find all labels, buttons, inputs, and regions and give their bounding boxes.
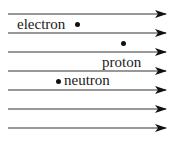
neutron-label: neutron [64,73,110,88]
electron-dot [75,22,80,27]
proton-dot [121,41,126,46]
proton-label: proton [102,55,141,70]
electron-label: electron [17,17,65,32]
field-diagram: electron proton neutron [0,0,176,145]
neutron-dot [56,79,61,84]
